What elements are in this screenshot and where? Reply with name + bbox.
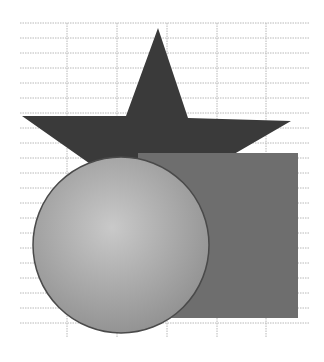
circle-shape xyxy=(33,157,209,333)
star-shape xyxy=(22,28,291,172)
shapes-canvas xyxy=(0,0,324,362)
